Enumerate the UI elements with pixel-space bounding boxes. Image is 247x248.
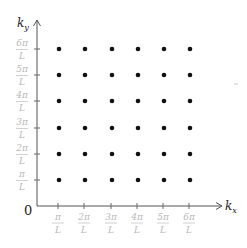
lattice-point — [57, 73, 62, 78]
x-axis-label: kx — [225, 199, 237, 215]
lattice-point — [188, 47, 193, 52]
y-tick-label-den: L — [18, 51, 25, 61]
y-tick-label-den: L — [18, 77, 25, 87]
x-tick-label-num: 4π — [130, 212, 144, 222]
y-tick-label-num: 3π — [16, 117, 29, 127]
lattice-point — [162, 152, 167, 157]
origin-label: 0 — [24, 203, 32, 218]
lattice-point — [110, 73, 115, 78]
x-tick-label-den: L — [133, 225, 140, 235]
lattice-points — [57, 47, 193, 183]
lattice-point — [162, 47, 167, 52]
lattice-point — [136, 99, 141, 104]
lattice-point — [57, 126, 62, 131]
lattice-point — [57, 99, 62, 104]
lattice-point — [110, 126, 115, 131]
x-tick-label-num: 2π — [77, 212, 91, 222]
lattice-point — [188, 73, 193, 78]
y-axis-label: ky — [17, 16, 29, 32]
k-space-diagram: kx ky 0 πLπL2πL2πL3πL3πL4πL4πL5πL5πL6πL6… — [0, 0, 247, 248]
lattice-point — [110, 99, 115, 104]
lattice-point — [83, 73, 88, 78]
lattice-point — [83, 47, 88, 52]
lattice-point — [188, 178, 193, 183]
lattice-point — [136, 126, 141, 131]
lattice-point — [136, 178, 141, 183]
lattice-point — [110, 47, 115, 52]
x-tick-label-num: 3π — [105, 212, 118, 222]
lattice-point — [162, 73, 167, 78]
lattice-point — [162, 126, 167, 131]
lattice-point — [188, 126, 193, 131]
x-tick-label-den: L — [54, 225, 61, 235]
lattice-point — [110, 152, 115, 157]
x-tick-label-den: L — [159, 225, 166, 235]
x-tick-label-den: L — [107, 225, 114, 235]
y-tick-label-num: π — [18, 169, 26, 179]
y-tick-label-num: 5π — [16, 64, 29, 74]
lattice-point — [162, 99, 167, 104]
y-tick-label-num: 6π — [16, 38, 29, 48]
lattice-point — [83, 126, 88, 131]
lattice-point — [188, 152, 193, 157]
lattice-point — [188, 99, 193, 104]
lattice-point — [136, 47, 141, 52]
x-tick-label-den: L — [80, 225, 87, 235]
x-tick-label-num: 6π — [183, 212, 196, 222]
x-tick-label-num: π — [54, 212, 62, 222]
lattice-point — [57, 152, 62, 157]
x-tick-label-den: L — [185, 225, 192, 235]
lattice-point — [162, 178, 167, 183]
lattice-point — [83, 99, 88, 104]
lattice-point — [57, 178, 62, 183]
y-tick-label-den: L — [18, 182, 25, 192]
x-tick-label-num: 5π — [157, 212, 170, 222]
lattice-point — [110, 178, 115, 183]
y-tick-label-den: L — [18, 130, 25, 140]
lattice-point — [136, 73, 141, 78]
y-tick-label-num: 2π — [15, 143, 29, 153]
lattice-point — [83, 178, 88, 183]
y-tick-label-den: L — [18, 156, 25, 166]
lattice-point — [83, 152, 88, 157]
y-tick-label-den: L — [18, 103, 25, 113]
lattice-point — [136, 152, 141, 157]
y-tick-label-num: 4π — [15, 90, 29, 100]
lattice-point — [57, 47, 62, 52]
